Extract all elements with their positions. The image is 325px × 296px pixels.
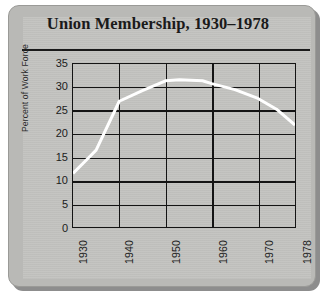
chart-screenshot: Union Membership, 1930–1978 Percent of W… [0,0,325,296]
y-tick-label: 10 [40,175,68,186]
y-tick-label: 0 [40,223,68,234]
x-tick-label: 1970 [263,240,275,264]
x-tick-label: 1940 [123,240,135,264]
plot-grid [73,64,295,227]
chart-title: Union Membership, 1930–1978 [14,14,302,34]
y-tick-label: 35 [40,58,68,69]
series-line [73,80,295,174]
x-axis-tick-labels: 193019401950196019701978 [72,232,296,282]
x-tick-label: 1960 [217,240,229,264]
x-tick-label: 1978 [301,240,313,264]
y-axis-tick-labels: 35302520151050 [40,63,68,228]
x-tick-label: 1950 [170,240,182,264]
title-divider [22,49,310,51]
y-axis-label: Percent of Work Force [20,23,30,153]
x-tick-label: 1930 [77,240,89,264]
y-tick-label: 15 [40,152,68,163]
y-tick-label: 30 [40,81,68,92]
y-tick-label: 20 [40,128,68,139]
line-series [73,64,295,227]
plot-area [72,63,296,228]
y-tick-label: 25 [40,105,68,116]
y-tick-label: 5 [40,199,68,210]
